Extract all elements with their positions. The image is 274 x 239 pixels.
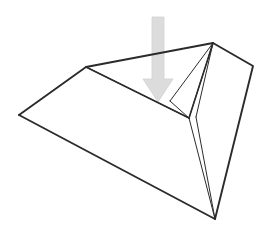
figure-container: A wireframe 3D shape resembling a folded… bbox=[0, 0, 274, 239]
polyhedron-diagram bbox=[0, 0, 274, 239]
